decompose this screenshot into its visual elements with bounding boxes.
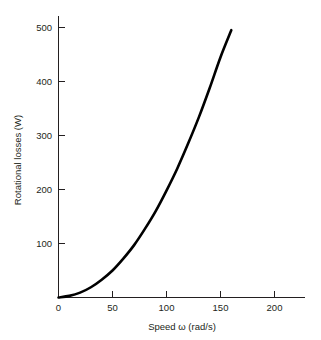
x-axis-title: Speed ω (rad/s) <box>148 321 216 332</box>
y-tick-label-400: 400 <box>36 76 52 87</box>
x-tick-label-100: 100 <box>159 302 175 313</box>
x-tick-label-200: 200 <box>267 302 283 313</box>
x-tick-label-50: 50 <box>107 302 118 313</box>
chart-figure: 500 400 300 200 100 0 50 100 150 200 Spe… <box>0 0 321 340</box>
x-tick-label-0: 0 <box>56 302 61 313</box>
x-tick-label-150: 150 <box>213 302 229 313</box>
rotational-losses-curve <box>59 30 232 297</box>
y-tick-label-500: 500 <box>36 22 52 33</box>
y-axis-title: Rotational losses (W) <box>12 115 23 205</box>
y-tick-label-200: 200 <box>36 184 52 195</box>
y-tick-label-100: 100 <box>36 238 52 249</box>
chart-plot-area: 500 400 300 200 100 0 50 100 150 200 Spe… <box>0 0 321 340</box>
y-tick-label-300: 300 <box>36 130 52 141</box>
